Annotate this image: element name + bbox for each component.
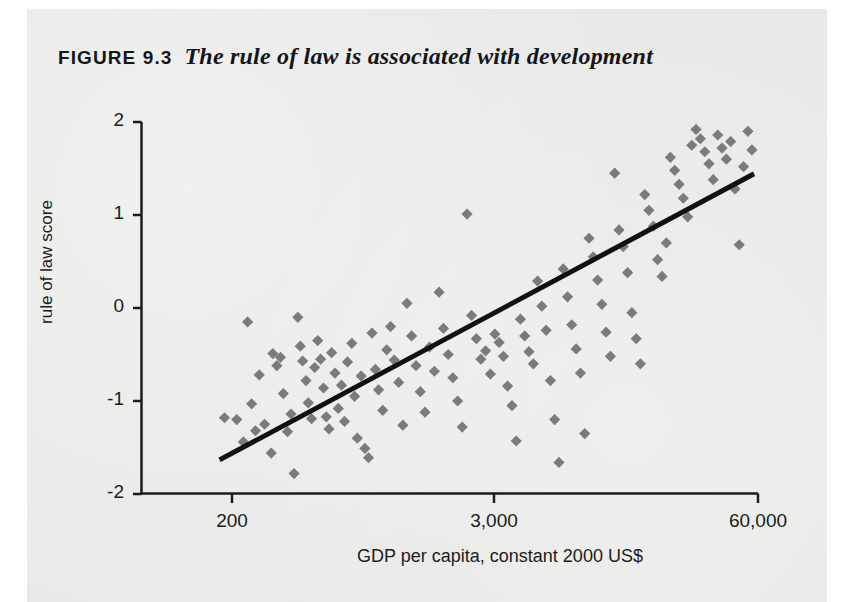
data-point	[333, 403, 344, 414]
data-point	[295, 341, 306, 352]
data-point	[381, 344, 392, 355]
data-point	[613, 224, 624, 235]
data-point	[443, 349, 454, 360]
data-point	[511, 435, 522, 446]
data-point	[746, 144, 757, 155]
data-point	[528, 358, 539, 369]
data-point	[673, 179, 684, 190]
data-point	[592, 275, 603, 286]
scatter-chart: 210-1-2 2003,00060,000 rule of law score…	[0, 0, 848, 602]
data-point	[734, 239, 745, 250]
data-point	[309, 362, 320, 373]
x-tick-label: 3,000	[434, 510, 554, 532]
data-point	[318, 382, 329, 393]
data-point	[566, 319, 577, 330]
data-point	[438, 323, 449, 334]
data-point	[297, 355, 308, 366]
data-point	[461, 208, 472, 219]
data-point	[312, 335, 323, 346]
y-tick-label: -2	[78, 481, 124, 503]
data-point	[553, 457, 564, 468]
data-point	[575, 368, 586, 379]
data-point	[250, 425, 261, 436]
data-point	[321, 411, 332, 422]
data-point	[292, 312, 303, 323]
data-point	[242, 316, 253, 327]
data-point	[359, 443, 370, 454]
axis-ticks	[133, 122, 758, 503]
data-point	[725, 136, 736, 147]
data-point	[452, 395, 463, 406]
axes	[140, 122, 758, 494]
data-point	[690, 124, 701, 135]
data-point	[549, 414, 560, 425]
data-point	[246, 398, 257, 409]
data-point	[669, 165, 680, 176]
data-point	[562, 291, 573, 302]
data-point	[219, 412, 230, 423]
data-point	[605, 351, 616, 362]
data-point	[288, 468, 299, 479]
y-tick-label: 2	[78, 109, 124, 131]
data-point	[373, 384, 384, 395]
data-point	[699, 146, 710, 157]
y-tick-label: -1	[78, 388, 124, 410]
data-point	[583, 233, 594, 244]
data-point	[433, 287, 444, 298]
data-point	[254, 369, 265, 380]
data-point	[366, 328, 377, 339]
data-point	[336, 380, 347, 391]
data-point	[600, 327, 611, 338]
data-point	[519, 330, 530, 341]
x-axis-title: GDP per capita, constant 2000 US$	[190, 546, 810, 567]
data-point	[447, 372, 458, 383]
data-point	[502, 381, 513, 392]
x-tick-label: 60,000	[698, 510, 818, 532]
data-point	[626, 307, 637, 318]
data-point	[401, 298, 412, 309]
data-point	[661, 237, 672, 248]
data-point	[415, 386, 426, 397]
data-point	[622, 267, 633, 278]
data-point	[429, 366, 440, 377]
data-point	[708, 174, 719, 185]
x-tick-label: 200	[172, 510, 292, 532]
data-point	[231, 414, 242, 425]
data-point	[471, 333, 482, 344]
y-tick-label: 0	[78, 295, 124, 317]
figure-page: FIGURE 9.3The rule of law is associated …	[0, 0, 848, 602]
data-point	[300, 375, 311, 386]
data-point	[686, 140, 697, 151]
data-point	[639, 189, 650, 200]
data-point	[703, 158, 714, 169]
data-point	[515, 314, 526, 325]
data-point	[643, 205, 654, 216]
data-point	[695, 133, 706, 144]
scatter-markers	[219, 124, 758, 479]
data-point	[346, 338, 357, 349]
data-point	[635, 358, 646, 369]
data-point	[742, 126, 753, 137]
data-point	[609, 168, 620, 179]
data-point	[523, 346, 534, 357]
data-point	[571, 343, 582, 354]
data-point	[579, 428, 590, 439]
data-point	[485, 368, 496, 379]
data-point	[656, 271, 667, 282]
data-point	[716, 142, 727, 153]
data-point	[541, 325, 552, 336]
data-point	[466, 310, 477, 321]
y-tick-label: 1	[78, 202, 124, 224]
data-point	[393, 377, 404, 388]
data-point	[303, 397, 314, 408]
data-point	[326, 347, 337, 358]
data-point	[278, 388, 289, 399]
data-point	[342, 356, 353, 367]
data-point	[406, 330, 417, 341]
data-point	[397, 420, 408, 431]
data-point	[738, 161, 749, 172]
data-point	[678, 193, 689, 204]
data-point	[631, 333, 642, 344]
data-point	[506, 400, 517, 411]
data-point	[266, 447, 277, 458]
